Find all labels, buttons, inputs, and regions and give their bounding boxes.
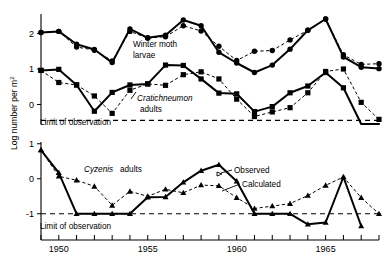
data-point-top-0-10	[216, 50, 221, 55]
data-point-top-3-13	[270, 109, 275, 114]
data-point-top-1-5	[127, 29, 132, 34]
data-point-top-3-19	[376, 117, 381, 122]
data-point-top-0-9	[198, 23, 203, 28]
data-point-top-2-17	[341, 85, 346, 90]
data-point-top-2-7	[163, 62, 168, 67]
data-point-top-1-17	[341, 52, 346, 57]
data-point-top-3-16	[323, 69, 328, 74]
data-point-top-1-4	[109, 58, 114, 63]
data-point-top-1-1	[56, 29, 61, 34]
top-panel: 012	[29, 14, 382, 124]
y-tick-label-top-1: 1	[29, 64, 34, 74]
data-point-top-1-13	[270, 48, 275, 53]
y-tick-label-top-2: 2	[29, 29, 34, 39]
data-point-top-3-15	[305, 90, 310, 95]
data-point-top-2-11	[234, 91, 239, 96]
data-point-top-1-15	[305, 28, 310, 33]
data-point-top-3-2	[74, 82, 79, 87]
leader-cratichneumon	[131, 92, 136, 99]
annotation-cratichneumon-line2: adults	[140, 105, 162, 114]
data-point-top-0-19	[376, 66, 381, 71]
limit-label-top: Limit of observation	[40, 118, 111, 127]
data-point-top-2-13	[270, 104, 275, 109]
data-point-top-2-4	[110, 90, 115, 95]
data-point-top-1-10	[216, 44, 221, 49]
data-point-top-3-7	[163, 83, 168, 88]
data-point-top-2-10	[216, 91, 221, 96]
data-point-top-1-19	[376, 61, 381, 66]
data-point-top-3-12	[252, 114, 257, 119]
data-point-top-0-14	[287, 46, 292, 51]
annotation-calculated: Calculated	[242, 180, 281, 189]
data-point-top-1-18	[359, 62, 364, 67]
data-point-top-3-9	[199, 69, 204, 74]
annotation-cyzenis-adults: adults	[120, 165, 142, 174]
data-point-bottom-1-15	[305, 192, 311, 197]
data-point-top-1-14	[287, 37, 292, 42]
data-point-top-2-3	[92, 109, 97, 114]
data-point-top-3-14	[287, 105, 292, 110]
y-axis-label: Log number per m2	[9, 76, 19, 150]
data-point-bottom-1-9	[198, 182, 204, 187]
y-axis-label-group: Log number per m2	[9, 76, 19, 150]
data-point-bottom-1-7	[163, 186, 169, 191]
data-point-top-2-8	[181, 63, 186, 68]
data-point-bottom-0-18	[358, 223, 364, 228]
data-point-bottom-1-11	[234, 195, 240, 200]
y-tick-label-bottom-2: 1	[29, 139, 34, 149]
series-line-top-0	[41, 19, 379, 73]
y-tick-label-bottom-1: 0	[29, 174, 34, 184]
data-point-top-2-12	[252, 109, 257, 114]
population-dynamics-chart: Log number per m2 012 -10119501955196019…	[0, 0, 388, 260]
data-point-top-1-12	[252, 49, 257, 54]
data-point-top-3-3	[92, 93, 97, 98]
data-point-top-1-9	[198, 28, 203, 33]
data-point-bottom-1-6	[145, 193, 151, 198]
limit-label-bottom: Limit of observation	[40, 222, 111, 231]
data-point-top-3-11	[234, 97, 239, 102]
data-point-bottom-1-13	[269, 203, 275, 208]
data-point-top-3-0	[38, 68, 43, 73]
annotation-cyzenis-italic: Cyzenis	[84, 165, 113, 174]
data-point-bottom-1-14	[287, 201, 293, 206]
x-tick-label-1950: 1950	[49, 244, 69, 254]
data-point-top-2-9	[199, 76, 204, 81]
x-tick-label-1960: 1960	[227, 244, 247, 254]
annotation-cratichneumon-line1: Cratichneumon	[137, 94, 193, 103]
data-point-top-2-15	[305, 83, 310, 88]
data-point-top-0-8	[181, 17, 186, 22]
data-point-bottom-1-0	[38, 147, 44, 152]
series-line-bottom-1	[41, 150, 379, 214]
data-point-top-1-0	[38, 30, 43, 35]
data-point-top-3-1	[56, 80, 61, 85]
data-point-top-3-5	[127, 88, 132, 93]
annotation-winter-moth-line1: Winter moth	[133, 40, 178, 49]
figure-root: Log number per m2 012 -10119501955196019…	[0, 0, 388, 260]
data-point-top-3-4	[110, 111, 115, 116]
annotation-observed: Observed	[234, 166, 270, 175]
data-point-top-1-16	[323, 16, 328, 21]
data-point-top-1-11	[234, 58, 239, 63]
data-point-top-3-17	[341, 66, 346, 71]
y-tick-label-bottom-0: -1	[26, 209, 34, 219]
data-point-top-1-7	[163, 34, 168, 39]
data-point-top-3-10	[216, 76, 221, 81]
data-point-top-0-12	[252, 70, 257, 75]
annotation-winter-moth-line2: larvae	[133, 51, 156, 60]
data-point-top-3-6	[145, 81, 150, 86]
x-tick-label-1965: 1965	[316, 244, 336, 254]
series-line-top-3	[41, 69, 379, 119]
y-tick-label-top-0: 0	[29, 100, 34, 110]
data-point-bottom-1-17	[340, 174, 346, 179]
x-tick-label-1955: 1955	[138, 244, 158, 254]
series-line-bottom-0	[41, 150, 361, 226]
data-point-top-3-8	[181, 72, 186, 77]
data-point-top-2-14	[287, 90, 292, 95]
data-point-top-3-18	[359, 100, 364, 105]
data-point-top-1-3	[92, 47, 97, 52]
data-point-bottom-0-10	[216, 162, 222, 167]
data-point-top-2-1	[56, 67, 61, 72]
data-point-top-2-5	[127, 82, 132, 87]
data-point-top-1-8	[181, 23, 186, 28]
data-point-top-1-2	[74, 44, 79, 49]
